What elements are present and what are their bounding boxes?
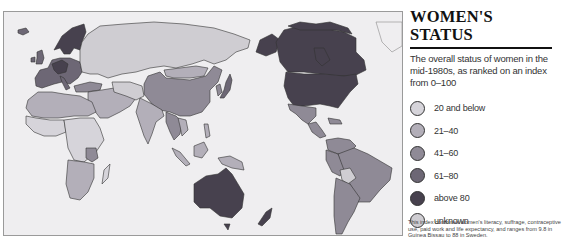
swatch-above-80-icon [410, 191, 425, 206]
legend-label: 41–60 [434, 148, 458, 158]
region-borneo [194, 142, 208, 158]
swatch-20-and-below-icon [410, 101, 425, 116]
region-southeast-asia [166, 112, 182, 140]
legend-label: above 80 [434, 193, 469, 203]
region-greenland [376, 22, 402, 52]
region-new-guinea [218, 156, 244, 170]
region-united-states [284, 72, 358, 108]
region-sumatra [172, 148, 190, 166]
region-mexico [288, 104, 316, 124]
region-central-africa [64, 118, 104, 162]
region-tasmania [224, 224, 230, 230]
legend-item-41-60: 41–60 [410, 142, 565, 165]
region-uk [36, 50, 44, 64]
region-korea [216, 84, 222, 96]
swatch-21-40-icon [410, 123, 425, 138]
region-central-america [308, 122, 326, 138]
region-philippines [204, 124, 210, 138]
region-mongolia [164, 66, 208, 78]
region-australia [194, 168, 244, 218]
legend-label: 61–80 [434, 171, 458, 181]
swatch-41-60-icon [410, 146, 425, 161]
map-subtitle: The overall status of women in the mid-1… [410, 53, 565, 89]
legend-label: 20 and below [434, 103, 485, 113]
legend: 20 and below 21–40 41–60 61–80 above 80 … [410, 97, 565, 232]
region-west-africa [26, 116, 66, 136]
region-caribbean [328, 118, 342, 124]
region-east-africa [86, 148, 98, 162]
legend-item-20-and-below: 20 and below [410, 97, 565, 120]
legend-panel: WOMEN'S STATUS The overall status of wom… [410, 8, 565, 232]
region-southern-africa [66, 160, 94, 200]
map-title: WOMEN'S STATUS [410, 8, 552, 49]
region-madagascar [102, 164, 110, 184]
legend-item-61-80: 61–80 [410, 165, 565, 188]
map-svg [4, 12, 403, 236]
legend-label: 21–40 [434, 126, 458, 136]
region-iceland [18, 28, 29, 35]
world-map [3, 11, 403, 236]
region-north-africa [26, 92, 96, 118]
region-japan [220, 74, 232, 98]
region-canada [276, 26, 366, 76]
legend-item-above-80: above 80 [410, 187, 565, 210]
region-new-zealand [258, 208, 272, 226]
region-ireland [31, 57, 35, 62]
footnote: This index combines women's literacy, su… [408, 219, 566, 239]
legend-item-21-40: 21–40 [410, 120, 565, 143]
swatch-61-80-icon [410, 168, 425, 183]
